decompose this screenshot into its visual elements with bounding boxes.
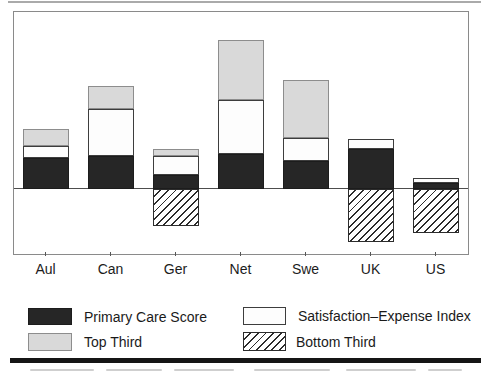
category-label-can: Can xyxy=(81,261,141,277)
x-axis-tick-ger xyxy=(175,252,176,256)
category-label-uk: UK xyxy=(341,261,401,277)
legend-label-satisfaction-expense-index: Satisfaction–Expense Index xyxy=(298,307,471,325)
category-label-us: US xyxy=(406,261,466,277)
category-label-aul: Aul xyxy=(16,261,76,277)
category-label-net: Net xyxy=(211,261,271,277)
x-axis-tick-net xyxy=(240,252,241,256)
figure-canvas: AulCanGerNetSweUKUS Primary Care Score S… xyxy=(0,0,481,373)
cropped-text-remnant xyxy=(254,369,330,372)
cropped-text-remnant xyxy=(30,369,94,372)
category-label-swe: Swe xyxy=(276,261,336,277)
cropped-text-remnant xyxy=(428,369,462,372)
category-label-ger: Ger xyxy=(146,261,206,277)
bottom-rule xyxy=(10,358,481,363)
x-axis-tick-swe xyxy=(305,252,306,256)
legend-label-primary-care-score: Primary Care Score xyxy=(84,308,207,326)
cropped-text-remnant xyxy=(106,369,162,372)
legend-swatch-bottom-third xyxy=(243,332,286,351)
legend-swatch-primary-care-score xyxy=(28,308,72,325)
x-axis-tick-aul xyxy=(45,252,46,256)
cropped-text-remnant xyxy=(174,369,234,372)
cropped-text-remnant xyxy=(346,369,416,372)
legend-label-bottom-third: Bottom Third xyxy=(296,333,376,351)
x-axis-tick-uk xyxy=(370,252,371,256)
legend-label-top-third: Top Third xyxy=(84,333,142,351)
legend-swatch-top-third xyxy=(28,333,72,351)
legend-swatch-satisfaction-expense-index xyxy=(243,307,286,325)
x-axis-tick-can xyxy=(110,252,111,256)
x-axis-tick-us xyxy=(435,252,436,256)
